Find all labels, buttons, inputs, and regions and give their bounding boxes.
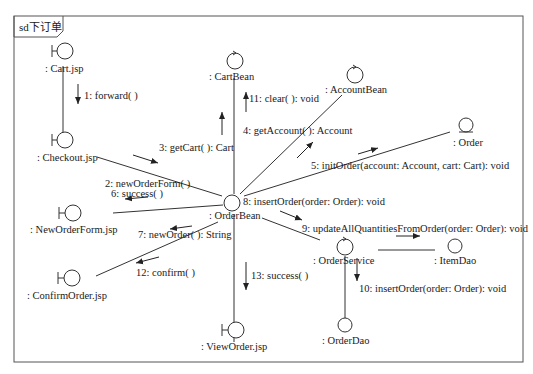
- arrow-2: [133, 155, 158, 163]
- diagram-frame: sd下订单: [14, 16, 523, 362]
- object-label: : AccountBean: [325, 84, 388, 95]
- message-label: 13: success( ): [251, 270, 309, 282]
- control-icon: [224, 195, 240, 211]
- message-label: 6: success( ): [111, 188, 163, 200]
- message-label: 8: insertOrder(order: Order): void: [243, 196, 386, 208]
- boundary-icon: [52, 43, 73, 59]
- arrow-4: [297, 142, 313, 158]
- link-newform-orderbean: [113, 205, 223, 213]
- link-accountbean-orderbean: [240, 95, 342, 194]
- object-label: : OrderService: [313, 255, 375, 266]
- object-label: : ViewOrder.jsp: [201, 341, 267, 352]
- message-label: 7: newOrder( ): String: [138, 229, 232, 241]
- message-label: 5: initOrder(account: Account, cart: Car…: [311, 160, 510, 172]
- object-circle-icon: [338, 318, 352, 332]
- message-label: 1: forward( ): [84, 90, 138, 102]
- control-icon: [227, 51, 243, 69]
- message-label: 4: getAccount( ): Account: [243, 125, 352, 137]
- object-label: : NewOrderForm.jsp: [30, 224, 118, 235]
- object-label: : Order: [453, 137, 484, 148]
- boundary-icon: [58, 270, 80, 286]
- object-label: : ConfirmOrder.jsp: [27, 290, 107, 301]
- control-icon: [337, 237, 353, 255]
- boundary-icon: [52, 132, 73, 148]
- message-label: 10: insertOrder(order: Order): void: [359, 283, 507, 295]
- message-label: 3: getCart( ): Cart: [159, 142, 234, 154]
- object-label: : ItemDao: [434, 255, 476, 266]
- object-circle-icon: [448, 239, 462, 253]
- boundary-icon: [59, 205, 81, 221]
- object-label: : Checkout.jsp: [37, 152, 98, 163]
- object-labels: : Cart.jsp : Checkout.jsp : NewOrderForm…: [27, 63, 484, 352]
- message-label: 9: updateAllQuantitiesFromOrder(order: O…: [302, 223, 529, 235]
- frame-title: sd下订单: [19, 21, 62, 33]
- entity-icon: [459, 118, 473, 132]
- arrow-12: [136, 257, 159, 263]
- arrow-5: [358, 148, 378, 154]
- control-icon: [347, 65, 363, 83]
- object-label: : Cart.jsp: [45, 63, 84, 74]
- object-label: : OrderDao: [322, 335, 370, 346]
- arrow-9-entry: [280, 211, 302, 220]
- message-label: 12: confirm( ): [136, 267, 195, 279]
- message-label: 11: clear( ): void: [249, 93, 320, 105]
- communication-diagram: sd下订单: [0, 0, 533, 374]
- object-label: : CartBean: [209, 71, 255, 82]
- object-label: : OrderBean: [209, 210, 261, 221]
- boundary-icon: [222, 322, 244, 338]
